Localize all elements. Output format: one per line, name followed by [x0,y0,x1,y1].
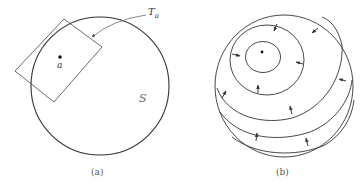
arrow-icon [339,79,346,81]
arrow-icon [312,28,318,33]
figure-b [215,15,354,157]
tangent-plane-pointer-arrow [92,15,146,37]
figure-a [15,15,169,155]
arrow-icon [296,62,303,64]
level-curve-5 [232,100,354,153]
pole-point [261,51,264,54]
diagram-canvas [0,0,360,186]
point-label-a: a [57,60,62,70]
tangent-plane-letter: T [148,6,155,17]
arrow-icon [232,54,240,56]
level-curve-3 [217,17,342,120]
arrow-icon [222,91,226,98]
arrow-icon [274,24,277,31]
level-curve-4 [220,80,352,137]
arrow-icon [306,138,308,146]
arrow-icon [256,133,257,141]
tangent-plane-subscript: a [155,12,159,20]
tangent-plane-label: Ta [148,6,159,20]
caption-b: (b) [276,167,289,177]
sphere-s [31,17,169,155]
arrow-icon [290,106,292,114]
surface-label-s: S [139,92,147,105]
level-curve-1 [246,42,281,73]
caption-a: (a) [91,167,103,177]
level-curve-2 [230,25,304,95]
point-a [58,55,62,59]
